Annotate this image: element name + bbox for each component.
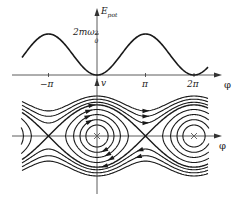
phase-x-arrow-icon — [214, 134, 222, 139]
top-x-axis-label: φ — [224, 80, 231, 90]
peak-label-main: 2mω — [73, 27, 95, 37]
top-y-arrow-icon — [95, 8, 100, 16]
direction-arrow-icon — [134, 154, 142, 160]
direction-arrow-icon — [136, 147, 144, 153]
top-y-axis-label: Epot — [101, 7, 117, 18]
potential-curve — [22, 34, 208, 75]
tick-label-minus-pi: −π — [40, 80, 53, 89]
phase-plot — [12, 78, 222, 194]
phase-x-axis-label: φ — [219, 141, 226, 151]
phase-y-arrow-icon — [95, 78, 100, 86]
top-x-arrow-icon — [214, 73, 222, 78]
phase-y-axis-label: v — [101, 79, 106, 88]
pendulum-diagram — [0, 0, 238, 201]
peak-label-sup: 2 — [95, 30, 99, 36]
direction-arrow-icon — [142, 121, 149, 126]
direction-arrow-icon — [103, 151, 111, 158]
direction-arrow-icon — [142, 109, 149, 114]
top-plot — [12, 8, 222, 80]
direction-arrow-icon — [84, 113, 92, 120]
direction-arrow-icon — [106, 155, 114, 162]
peak-label-sub: 0 — [95, 38, 99, 44]
peak-value-label: 2mω20 — [73, 28, 100, 37]
tick-label-pi: π — [142, 80, 148, 89]
direction-arrow-icon — [142, 114, 149, 119]
y-label-main: E — [101, 6, 108, 16]
direction-arrow-icon — [85, 108, 93, 114]
tick-label-2pi: 2π — [187, 80, 199, 89]
y-label-sub: pot — [108, 11, 118, 18]
direction-arrow-icon — [100, 147, 108, 154]
